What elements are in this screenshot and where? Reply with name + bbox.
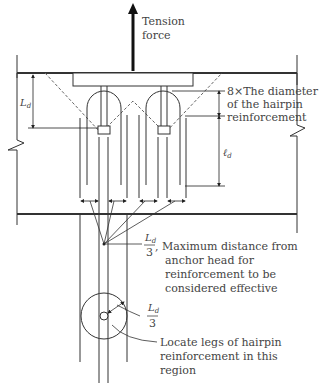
max-distance-label-2: anchor head for (165, 254, 255, 267)
locate-label-2: reinforcement in this (160, 350, 278, 363)
max-distance-label-1: , Maximum distance from (155, 240, 298, 253)
tension-label-1: Tension (142, 15, 185, 28)
effective-region-circle (81, 293, 157, 342)
max-distance-label-4: considered effective (165, 282, 278, 295)
svg-text:Ld: Ld (147, 302, 160, 315)
ld-label: ℓd (223, 147, 232, 160)
svg-text:3: 3 (149, 317, 156, 330)
tension-arrow-icon (128, 3, 138, 71)
anchor-diagram: Tension force (0, 0, 319, 383)
fraction-Ld-3-circle: Ld 3 (147, 302, 160, 330)
diameter-label-3: reinforcement (227, 111, 307, 124)
anchor-bolts (98, 86, 170, 134)
tension-label-2: force (142, 29, 171, 42)
svg-text:3: 3 (146, 246, 153, 259)
diameter-label-2: of the hairpin (227, 98, 303, 111)
leader-lines (90, 201, 175, 244)
Ld-label: Ld (19, 97, 32, 110)
anchor-plate (73, 73, 193, 86)
max-distance-label-3: reinforcement to be (165, 268, 276, 281)
locate-label-1: Locate legs of hairpin (160, 336, 282, 349)
diameter-label-1: 8×The diameter (227, 85, 319, 98)
locate-label-3: region (160, 364, 196, 377)
